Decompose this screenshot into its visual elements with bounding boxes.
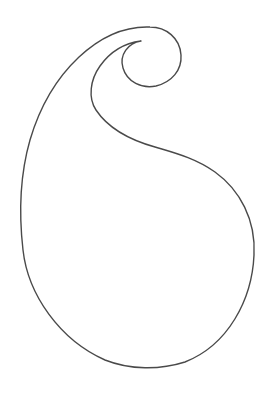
paisley-drawing — [0, 0, 271, 393]
drawing-canvas: paisley outline — [0, 0, 271, 393]
paisley-outline — [21, 27, 254, 368]
